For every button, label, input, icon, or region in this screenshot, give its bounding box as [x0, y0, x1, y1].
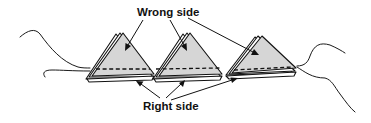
prairie-point-3	[226, 36, 296, 79]
arrowhead-right-side-1	[136, 81, 144, 87]
thread-right-upper	[297, 44, 345, 66]
prairie-point-1	[86, 33, 154, 82]
label-right-side: Right side	[143, 100, 199, 112]
arrow-right-side-2	[166, 84, 181, 98]
prairie-points-diagram: Wrong side Right side	[0, 0, 371, 123]
thread-left-lower	[44, 70, 90, 77]
prairie-point-2	[153, 33, 222, 82]
thread-right-lower	[297, 67, 355, 112]
thread-left-upper	[20, 30, 90, 68]
arrow-right-side-1	[141, 84, 160, 98]
arrowhead-right-side-3	[231, 78, 239, 84]
fabric-wrong-side-2	[159, 33, 222, 76]
arrow-wrong-side-2	[170, 20, 184, 45]
arrow-wrong-side-1	[128, 20, 143, 45]
label-wrong-side: Wrong side	[137, 6, 199, 18]
